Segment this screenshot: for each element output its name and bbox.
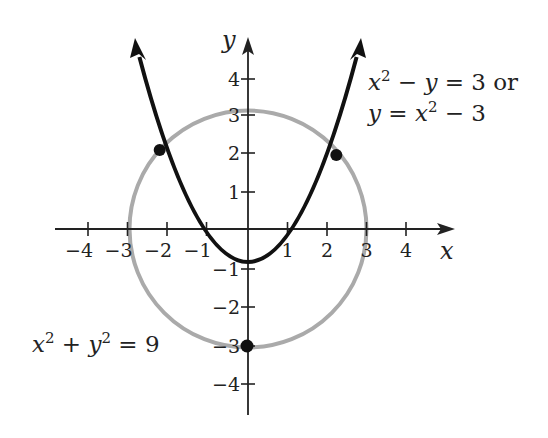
intersection-point-left [154, 144, 166, 156]
y-tick-label: −3 [212, 335, 240, 357]
y-tick-label: −4 [212, 373, 240, 395]
x-tick-label: −2 [144, 239, 172, 261]
intersection-point-right [330, 149, 342, 161]
y-axis-label: y [221, 26, 236, 54]
y-axis: 1 2 3 4 −1 −2 −3 −4 y [212, 26, 255, 415]
x-axis: −4 −3 −2 −1 1 2 3 4 x [55, 222, 455, 265]
parabola-equation-line2: y = x2 − 3 [367, 98, 486, 126]
x-tick-label: −4 [65, 239, 93, 261]
parabola-left-arrow-icon [130, 38, 146, 60]
x-tick-label: −1 [183, 239, 211, 261]
graph-figure: −4 −3 −2 −1 1 2 3 4 x 1 2 3 4 −1 −2 −3 −… [0, 0, 548, 438]
y-tick-label: 1 [228, 181, 240, 203]
x-tick-label: −3 [104, 239, 132, 261]
y-tick-label: −2 [212, 296, 240, 318]
intersection-point-bottom [241, 340, 254, 353]
y-tick-label: 2 [228, 142, 240, 164]
x-tick-label: 3 [360, 239, 372, 261]
y-tick-label: 3 [228, 104, 240, 126]
x-tick-label: 2 [321, 239, 333, 261]
parabola-equation-line1: x2 − y = 3 or [368, 67, 518, 95]
y-tick-label: 4 [228, 68, 240, 90]
parabola-right-arrow-icon [350, 38, 366, 60]
x-axis-label: x [440, 237, 454, 265]
circle-equation: x2 + y2 = 9 [32, 329, 160, 357]
x-tick-label: 4 [400, 239, 412, 261]
